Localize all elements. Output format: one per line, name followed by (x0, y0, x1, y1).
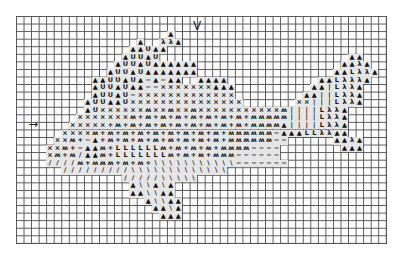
stitch-cell: − (258, 160, 266, 168)
stitch-cell: ▲ (333, 137, 341, 145)
stitch-cell: / (46, 160, 54, 168)
stitch-cell: ▲ (341, 145, 349, 153)
stitch-cell: \ (227, 160, 235, 168)
stitch-cell: λ (348, 99, 356, 107)
stitch-cell: − (243, 160, 251, 168)
stitch-cell: / (122, 175, 130, 183)
stitch-cell: ▲ (144, 198, 152, 206)
stitch-cell: \ (212, 167, 220, 175)
stitch-cell: λ (326, 130, 334, 138)
stitch-cell: / (61, 167, 69, 175)
stitch-cell: / (92, 167, 100, 175)
stitch-cell: − (280, 137, 288, 145)
stitch-cell: ▲ (182, 69, 190, 77)
stitch-cell: ▲ (356, 145, 364, 153)
stitch-cell: ▲ (159, 46, 167, 54)
stitch-cell: λ (167, 39, 175, 47)
stitch-cell: − (273, 160, 281, 168)
stitch-cell: λ (318, 130, 326, 138)
stitch-cell: / (107, 167, 115, 175)
stitch-cell: ▲ (175, 39, 183, 47)
stitch-cell: − (250, 160, 258, 168)
stitch-cell: ▲ (129, 190, 137, 198)
stitch-cell: \ (182, 175, 190, 183)
stitch-cell: \ (220, 167, 228, 175)
stitch-cell: ▲ (288, 130, 296, 138)
stitch-cell: \ (175, 175, 183, 183)
stitch-cell: / (84, 167, 92, 175)
stitch-cell: / (54, 160, 62, 168)
cross-stitch-chart: ▲▲λλ▲▲▲U▲▲▲UU▲U▲▲▲UU▲U▲▲▲▲▲▲▲▲λ▲▲UU▲U▲▲▲… (16, 16, 386, 243)
stitch-cell: − (265, 160, 273, 168)
stitch-cell: − (280, 160, 288, 168)
stitch-cell: \ (205, 167, 213, 175)
center-arrow-down-icon: V (193, 20, 201, 32)
stitch-cell: ▲ (295, 130, 303, 138)
stitch-cell: ▲ (356, 99, 364, 107)
stitch-cell: / (99, 167, 107, 175)
stitch-cell: − (235, 160, 243, 168)
stitch-cell: L (303, 130, 311, 138)
stitch-cell: L (310, 130, 318, 138)
stitch-cell: / (69, 167, 77, 175)
stitch-cell: ▲ (348, 145, 356, 153)
stitch-cell: / (114, 167, 122, 175)
stitch-cell: ▲ (137, 190, 145, 198)
stitch-cell: \ (197, 167, 205, 175)
stitch-cell: ▲ (371, 69, 379, 77)
center-arrow-right-icon: → (28, 118, 38, 130)
stitch-cell: ▲ (167, 213, 175, 221)
stitch-cell: ▲ (152, 205, 160, 213)
stitch-cell: / (76, 167, 84, 175)
stitch-cell: \ (190, 175, 198, 183)
stitch-cell: ▲ (175, 213, 183, 221)
stitch-cell: ▲ (190, 69, 198, 77)
stitch-cell: ▲ (363, 77, 371, 85)
stitch-cell: ▲ (159, 213, 167, 221)
